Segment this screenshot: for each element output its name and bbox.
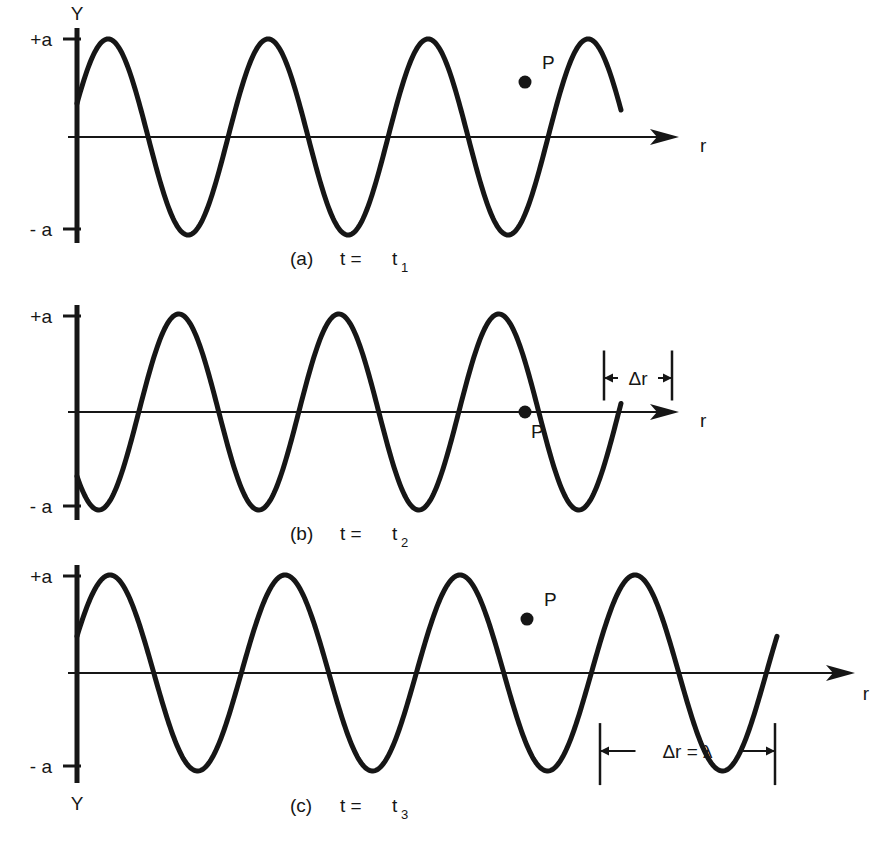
panel-c-y-axis-label: Y <box>71 793 84 814</box>
panel-c-caption-subscript: 3 <box>401 807 408 822</box>
panel-c-dimension-label: Δr = λ <box>662 741 713 762</box>
panel-b-point-p-marker <box>519 406 532 419</box>
panel-a-axes <box>63 28 679 243</box>
panel-b-caption-var: t <box>392 523 398 544</box>
panel-b-caption-prefix: (b) <box>290 523 313 544</box>
panel-b-x-axis-label: r <box>700 410 707 431</box>
panel-b-caption: (b) t = t 2 <box>290 523 408 550</box>
panel-a-caption-subscript: 1 <box>401 260 408 275</box>
panel-b-dimension-arrowhead-right <box>663 374 672 383</box>
panel-c-caption: (c) t = t 3 <box>290 795 408 822</box>
panel-c-dimension-arrowhead-left <box>600 747 609 756</box>
panel-c-caption-var: t <box>392 795 398 816</box>
panel-c-caption-text: t = <box>340 795 362 816</box>
panel-b-axes <box>63 305 679 520</box>
panel-a-caption-prefix: (a) <box>290 248 313 269</box>
panel-c-caption-prefix: (c) <box>290 795 312 816</box>
panel-b-dimension-label: Δr <box>628 368 648 389</box>
panel-c-point-p-marker <box>521 613 534 626</box>
wave-propagation-figure: +a - a Y r P (a) t = t 1 +a - a r P <box>0 0 885 843</box>
panel-a-caption-var: t <box>392 248 398 269</box>
panel-a-caption-text: t = <box>340 248 362 269</box>
panel-c-ytick-plus-a: +a <box>30 566 52 587</box>
panel-a-caption: (a) t = t 1 <box>290 248 408 275</box>
panel-a: +a - a Y r P (a) t = t 1 <box>30 3 707 275</box>
panel-b: +a - a r P Δr (b) t = t 2 <box>30 305 707 550</box>
panel-c-x-axis-label: r <box>863 683 870 704</box>
panel-c-ytick-minus-a: - a <box>30 756 53 777</box>
panel-b-dimension-arrowhead-left <box>604 374 613 383</box>
panel-a-point-p-label: P <box>542 52 555 73</box>
panel-b-ytick-minus-a: - a <box>30 496 53 517</box>
panel-a-ytick-plus-a: +a <box>30 29 52 50</box>
panel-b-ytick-plus-a: +a <box>30 306 52 327</box>
panel-c-dimension-arrowhead-right <box>766 747 775 756</box>
panel-b-point-p-label: P <box>531 421 544 442</box>
panel-b-caption-text: t = <box>340 523 362 544</box>
panel-c-point-p-label: P <box>544 589 557 610</box>
panel-a-ytick-minus-a: - a <box>30 219 53 240</box>
panel-a-point-p-marker <box>519 76 532 89</box>
panel-a-x-axis-label: r <box>700 135 707 156</box>
panel-b-delta-r-dimension: Δr <box>604 351 672 401</box>
panel-c: +a - a Y r P Δr = λ (c) t = t 3 <box>30 565 870 822</box>
panel-a-y-axis-label: Y <box>71 3 84 24</box>
panel-b-caption-subscript: 2 <box>401 535 408 550</box>
